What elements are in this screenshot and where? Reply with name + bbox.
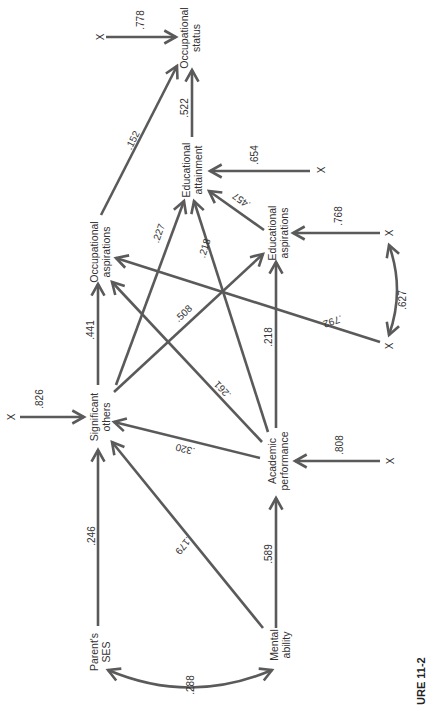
node-academic-performance: Academic performance	[266, 431, 290, 490]
coef-academic-to-occ-aspirations: .261	[211, 378, 233, 400]
edge-aspiration-errors-correlation	[389, 245, 397, 335]
error-x-occupational-aspirations: X	[384, 342, 395, 349]
edge-significant-to-edu-aspirations	[114, 254, 263, 392]
svg-text:others: others	[100, 402, 112, 431]
edge-mental-to-significant-others	[112, 442, 263, 628]
node-mental-ability: Mental ability	[268, 629, 292, 661]
coef-error-educational-aspirations: .768	[333, 206, 344, 226]
svg-text:Occupational: Occupational	[178, 7, 190, 68]
svg-text:aspirations: aspirations	[278, 208, 290, 259]
svg-text:SES: SES	[100, 641, 112, 662]
error-x-academic-performance: X	[385, 457, 396, 464]
svg-text:Significant: Significant	[88, 393, 100, 442]
node-educational-aspirations: Educational aspirations	[266, 206, 290, 261]
coef-mental-to-significant-others: .179	[173, 535, 194, 557]
coef-significant-to-edu-attainment: .227	[150, 222, 167, 244]
coef-mental-to-academic: .589	[263, 544, 274, 564]
svg-text:Mental: Mental	[268, 629, 280, 661]
coef-academic-to-significant-others: .320	[174, 442, 196, 457]
coef-edu-attainment-to-status: .522	[179, 98, 190, 118]
error-x-significant-others: X	[6, 413, 17, 420]
svg-text:Parent's: Parent's	[88, 633, 100, 671]
coef-error-educational-attainment: .654	[249, 145, 260, 165]
coef-significant-to-occ-aspirations: .441	[85, 320, 96, 340]
figure-caption: URE 11-2	[415, 657, 427, 705]
node-educational-attainment: Educational attainment	[180, 143, 204, 198]
svg-text:Occupational: Occupational	[88, 221, 100, 282]
coef-ses-mental-correlation: .288	[185, 675, 196, 695]
coef-ses-to-significant-others: .246	[86, 526, 97, 546]
coef-error-academic-performance: .808	[334, 435, 345, 455]
node-occupational-aspirations: Occupational aspirations	[88, 221, 112, 282]
svg-text:aspirations: aspirations	[100, 227, 112, 278]
svg-text:attainment: attainment	[192, 145, 204, 194]
error-x-occupational-status: X	[95, 33, 106, 40]
coef-error-significant-others: .826	[34, 389, 45, 409]
svg-text:Educational: Educational	[180, 143, 192, 198]
svg-text:Educational: Educational	[266, 206, 278, 261]
coef-error-occupational-aspirations: .792	[321, 313, 343, 330]
coef-aspiration-errors-correlation: .627	[397, 290, 408, 310]
node-parents-ses: Parent's SES	[88, 633, 112, 671]
svg-text:performance: performance	[278, 431, 290, 490]
node-occupational-status: Occupational status	[178, 7, 202, 68]
edge-academic-to-edu-attainment	[194, 201, 268, 432]
edge-occ-aspirations-to-occ-status	[101, 66, 177, 215]
coef-academic-to-edu-aspirations: .218	[263, 327, 274, 347]
svg-text:ability: ability	[280, 631, 292, 659]
svg-text:status: status	[190, 24, 202, 52]
coef-error-occupational-status: .778	[135, 10, 146, 30]
error-x-educational-attainment: X	[316, 166, 327, 173]
error-x-educational-aspirations: X	[384, 229, 395, 236]
node-significant-others: Significant others	[88, 393, 112, 442]
path-diagram: Occupational status Educational attainme…	[0, 0, 428, 705]
svg-text:Academic: Academic	[266, 438, 278, 484]
